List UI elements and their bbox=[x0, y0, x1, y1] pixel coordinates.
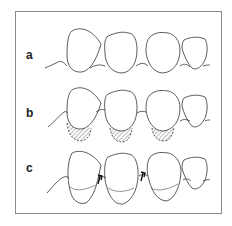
tooth-3 bbox=[146, 32, 180, 73]
tooth-3 bbox=[146, 90, 180, 131]
arrow-icon bbox=[141, 172, 145, 181]
teeth-diagram bbox=[0, 0, 232, 226]
tooth-4 bbox=[182, 95, 207, 127]
tooth-2 bbox=[105, 153, 139, 204]
tooth-3 bbox=[147, 152, 181, 201]
tooth-1 bbox=[68, 151, 101, 203]
panel-c-teeth bbox=[47, 151, 210, 204]
tooth-4 bbox=[182, 157, 207, 189]
tooth-2 bbox=[105, 32, 137, 73]
panel-a-teeth bbox=[45, 29, 210, 73]
panel-b-teeth bbox=[48, 88, 210, 142]
tooth-1 bbox=[67, 88, 101, 129]
tooth-2 bbox=[105, 90, 137, 131]
